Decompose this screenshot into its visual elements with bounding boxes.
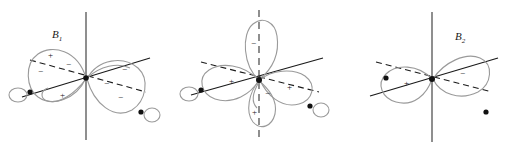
lobe-top-vertical [245, 20, 277, 80]
atom-marker [27, 89, 32, 94]
atom-marker [198, 87, 203, 92]
phase-sign-minus: − [104, 78, 109, 88]
orbital-label-b1: B1 [52, 28, 62, 43]
phase-sign-minus: − [265, 88, 270, 98]
origin-marker [429, 76, 435, 82]
phase-sign-plus: + [48, 50, 53, 60]
origin-marker [256, 77, 262, 83]
phase-sign-minus: − [66, 59, 71, 69]
orbital-label-main: B [52, 28, 59, 40]
terminal-ring-right [144, 108, 160, 122]
phase-sign-minus: − [38, 66, 43, 76]
lobe-left [28, 49, 86, 101]
lone-pair-dot [383, 75, 388, 80]
orbital-panel-b3: + − B3 [342, 0, 513, 155]
orbital-lobes-b1 [9, 49, 160, 122]
orbital-label-subscript: 1 [59, 35, 63, 43]
phase-signs-b1: + − + − − − − [38, 50, 127, 102]
phase-sign-plus: + [287, 82, 292, 92]
origin-marker [83, 75, 89, 81]
terminal-ring-left [9, 88, 27, 102]
phase-sign-plus: + [60, 90, 65, 100]
orbital-lobes-b3 [381, 56, 490, 103]
phase-sign-plus: + [229, 76, 234, 86]
orbital-symmetry-figure: + − + − − − − B1 [0, 0, 513, 155]
phase-sign-plus: + [404, 78, 409, 88]
lobe-inner-lower [253, 82, 259, 108]
atom-markers-b2 [198, 77, 312, 109]
atom-marker [138, 109, 143, 114]
lone-pair-dot [483, 109, 488, 114]
terminal-ring-right [313, 103, 329, 117]
phase-sign-minus: − [251, 38, 256, 48]
phase-sign-minus: − [118, 92, 123, 102]
phase-sign-minus: − [122, 64, 127, 74]
solid-diagonal-axis [191, 58, 323, 95]
orbital-panel-b2: − + + + − B2 [171, 0, 342, 155]
phase-sign-plus: + [252, 107, 257, 117]
phase-sign-minus: − [460, 68, 465, 78]
axes-b2 [191, 10, 323, 142]
atom-markers-b3 [383, 75, 488, 114]
orbital-panel-b1: + − + − − − − B1 [0, 0, 171, 155]
atom-marker [307, 103, 312, 108]
